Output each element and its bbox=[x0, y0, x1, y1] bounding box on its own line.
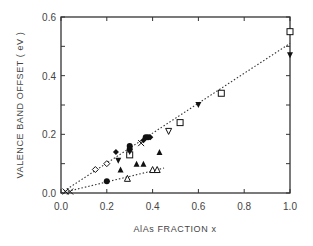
data-points bbox=[63, 29, 293, 195]
x-tick-label: 0.0 bbox=[54, 201, 68, 212]
filled-diamond-marker bbox=[113, 149, 119, 155]
x-axis-label: AlAs FRACTION x bbox=[133, 224, 216, 234]
open-square-marker bbox=[287, 29, 293, 35]
chart-canvas: 0.00.20.40.60.81.00.00.20.40.6 AlAs FRAC… bbox=[0, 0, 313, 246]
y-axis-label: VALENCE BAND OFFSET ( eV ) bbox=[15, 32, 25, 179]
x-tick-label: 0.2 bbox=[100, 201, 114, 212]
y-tick-label: 0.6 bbox=[42, 12, 56, 23]
x-tick-label: 0.6 bbox=[191, 201, 205, 212]
y-tick-label: 0.2 bbox=[42, 129, 56, 140]
y-tick-label: 0.0 bbox=[42, 188, 56, 199]
filled-circle-marker bbox=[104, 178, 110, 184]
filled-inverted-triangle-marker bbox=[115, 158, 121, 164]
filled-triangle-marker bbox=[134, 161, 140, 167]
filled-triangle-marker bbox=[140, 161, 146, 167]
axis-ticks: 0.00.20.40.60.81.00.00.20.40.6 bbox=[42, 12, 297, 212]
filled-circle-marker bbox=[127, 146, 133, 152]
filled-triangle-marker bbox=[156, 149, 162, 155]
filled-triangle-marker bbox=[118, 167, 124, 173]
open-square-marker bbox=[177, 120, 183, 126]
y-tick-label: 0.4 bbox=[42, 71, 56, 82]
open-inverted-triangle-marker bbox=[166, 128, 172, 134]
x-tick-label: 0.8 bbox=[237, 201, 251, 212]
x-tick-label: 1.0 bbox=[283, 201, 297, 212]
x-tick-label: 0.4 bbox=[146, 201, 160, 212]
filled-inverted-triangle-marker bbox=[287, 52, 293, 58]
lower-fit-line bbox=[61, 168, 164, 193]
open-square-marker bbox=[218, 90, 224, 96]
open-triangle-marker bbox=[154, 167, 160, 173]
